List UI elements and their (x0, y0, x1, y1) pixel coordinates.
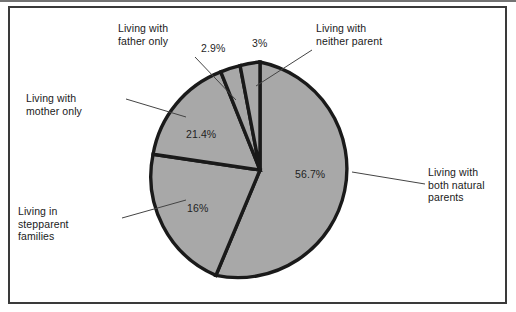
label-living-with-neither-parent: Living with neither parent (316, 22, 426, 47)
leader-line-both-natural (352, 172, 425, 184)
label-living-with-father-only: Living with father only (118, 22, 214, 47)
label-living-with-both-natural-parents: Living with both natural parents (428, 166, 514, 204)
value-label-stepparent-families: 16% (187, 202, 208, 214)
label-living-with-mother-only: Living with mother only (26, 92, 130, 117)
value-label-neither-parent: 3% (252, 37, 267, 49)
value-label-father-only: 2.9% (201, 42, 225, 54)
value-label-mother-only: 21.4% (186, 128, 216, 140)
value-label-both-natural-parents: 56.7% (295, 168, 325, 180)
label-living-in-stepparent-families: Living in stepparent families (18, 205, 124, 243)
pie-chart-figure: Living with father only Living with neit… (0, 0, 516, 312)
